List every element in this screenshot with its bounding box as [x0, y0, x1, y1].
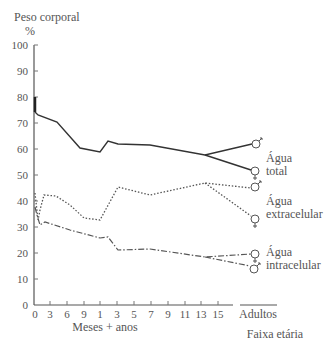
x-tick-11a: 11 [180, 308, 191, 320]
y-tick-70: 70 [17, 117, 29, 129]
female-icon [251, 167, 259, 180]
y-tick-60: 60 [17, 143, 29, 155]
x-tick-1a: 1 [97, 308, 103, 320]
y-tick-80: 80 [17, 91, 29, 103]
body-water-chart: 100 90 80 70 60 50 40 30 20 10 0 0 3 6 [0, 0, 334, 346]
male-icon [251, 181, 261, 191]
y-tick-90: 90 [17, 65, 29, 77]
label-total-2: total [266, 164, 288, 178]
x-tick-7a: 7 [148, 308, 154, 320]
y-tick-100: 100 [12, 39, 29, 51]
x-adults-label: Adultos [239, 307, 277, 321]
series-extracellular-water [35, 183, 251, 220]
male-icon [252, 138, 262, 148]
x-axis: 0 3 6 9 1 3 5 7 9 11 13 15 Adultos Meses… [32, 301, 304, 341]
y-axis: 100 90 80 70 60 50 40 30 20 10 0 [12, 39, 39, 311]
x-axis-label: Meses + anos [72, 320, 138, 334]
x-axis-label-2: Faixa etária [247, 327, 304, 341]
x-tick-9m: 9 [81, 308, 87, 320]
label-intra-2: intracelular [266, 258, 321, 272]
x-tick-3a: 3 [114, 308, 120, 320]
y-tick-50: 50 [17, 169, 29, 181]
x-tick-6m: 6 [64, 308, 70, 320]
x-tick-5a: 5 [131, 308, 137, 320]
x-tick-9a: 9 [165, 308, 171, 320]
series-labels: Água total Água extracelular Água intrac… [266, 151, 323, 272]
label-extra-1: Água [266, 194, 293, 208]
y-tick-40: 40 [17, 195, 29, 207]
female-icon [251, 250, 259, 263]
label-total-1: Água [266, 151, 293, 165]
label-intra-1: Água [266, 245, 293, 259]
y-tick-20: 20 [17, 247, 29, 259]
series-intracellular-water [35, 207, 251, 266]
x-tick-13a: 13 [196, 308, 208, 320]
x-tick-0: 0 [32, 308, 38, 320]
female-icon [251, 215, 259, 228]
series-total-water [35, 97, 252, 170]
y-tick-0: 0 [23, 299, 29, 311]
male-icon [250, 263, 260, 273]
y-tick-30: 30 [17, 221, 29, 233]
y-tick-10: 10 [17, 273, 29, 285]
x-tick-15a: 15 [213, 308, 225, 320]
sex-symbols [250, 138, 262, 273]
x-tick-3m: 3 [47, 308, 53, 320]
label-extra-2: extracelular [266, 207, 323, 221]
